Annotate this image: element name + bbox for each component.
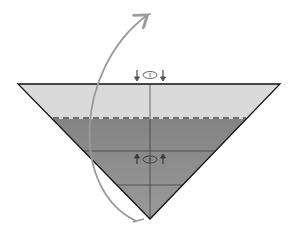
fold-target-dot: [149, 13, 151, 15]
turn-over-symbol-top-icon: [135, 70, 166, 81]
diagram-canvas: [0, 0, 295, 235]
origami-diagram: [0, 0, 295, 235]
